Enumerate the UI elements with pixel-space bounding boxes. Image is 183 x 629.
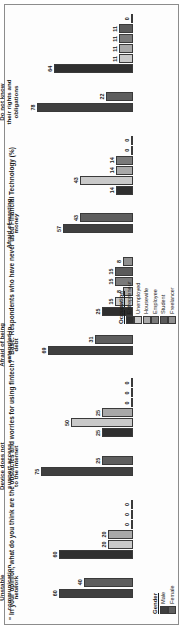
bar-housewife-3[interactable]: 14 (21, 166, 133, 175)
bar-freelancer-0[interactable]: 0 (21, 500, 133, 509)
bar-rect (123, 257, 133, 266)
bar-value-label: 57 (56, 226, 62, 232)
bar-housewife-4[interactable]: 11 (21, 44, 133, 53)
bar-female-2[interactable]: 31 (21, 335, 133, 344)
legend-occupation: Occupation EntrepreneurUnemployedHousewi… (118, 281, 177, 324)
bar-value-label: 50 (64, 420, 70, 426)
bar-unemployed-2[interactable]: 15 (21, 297, 133, 306)
legend-gender-title: Gender (152, 585, 159, 614)
legend-swatch-icon (151, 316, 159, 324)
bar-entrepreneur-2[interactable]: 25 (21, 307, 133, 316)
bar-value-label: 69 (41, 347, 47, 353)
bar-rect (119, 24, 133, 33)
bar-employee-1[interactable]: 0 (21, 398, 133, 407)
bar-value-label: 78 (30, 105, 36, 111)
bar-entrepreneur-3[interactable]: 14 (21, 186, 133, 195)
bar-value-label: 60 (52, 590, 58, 596)
chart-canvas: " In your opinion, what do you think are… (5, 5, 178, 624)
legend-item-label: Employee (152, 289, 159, 314)
bar-female-0[interactable]: 40 (21, 578, 133, 587)
bar-freelancer-2[interactable]: 8 (21, 257, 133, 266)
bar-rect (131, 388, 133, 397)
legend-item-gender-1[interactable]: Female (168, 585, 176, 614)
bar-value-label: 14 (109, 157, 115, 163)
bar-rect (59, 550, 133, 559)
legend-swatch-icon (126, 316, 134, 324)
plot-area: Unstable communication network6040602020… (21, 11, 133, 618)
bar-group-occupation-3: 1443141400 (21, 137, 133, 193)
bar-unemployed-1[interactable]: 50 (21, 418, 133, 427)
legend-item-occupation-4[interactable]: Student (160, 281, 168, 324)
bar-entrepreneur-0[interactable]: 60 (21, 550, 133, 559)
bar-rect (95, 335, 133, 344)
legend-item-gender-0[interactable]: Male (160, 585, 168, 614)
bar-group-occupation-0: 602020000 (21, 501, 133, 557)
legend-occupation-title: Occupation (118, 281, 125, 324)
bar-rect (37, 103, 133, 112)
bar-female-3[interactable]: 43 (21, 213, 133, 222)
bar-rect (131, 398, 133, 407)
legend-occupation-items: EntrepreneurUnemployedHousewifeEmployeeS… (126, 281, 177, 324)
legend-swatch-icon (160, 606, 168, 614)
bar-housewife-2[interactable]: 8 (21, 287, 133, 296)
bar-male-3[interactable]: 57 (21, 224, 133, 233)
category-label: Device does not support access to the in… (0, 441, 19, 492)
bar-rect (119, 34, 133, 43)
bar-female-1[interactable]: 25 (21, 456, 133, 465)
legend-item-occupation-3[interactable]: Employee (151, 281, 159, 324)
bar-value-label: 22 (99, 94, 105, 100)
legend-item-occupation-2[interactable]: Housewife (143, 281, 151, 324)
bar-value-label: 64 (47, 66, 53, 72)
bar-male-1[interactable]: 75 (21, 467, 133, 476)
bar-rect (131, 146, 133, 155)
bar-rect (116, 166, 133, 175)
legend-item-occupation-5[interactable]: Freelancer (168, 281, 176, 324)
legend-item-occupation-1[interactable]: Unemployed (134, 281, 142, 324)
figure-frame: " In your opinion, what do you think are… (4, 4, 179, 625)
bar-student-4[interactable]: 11 (21, 24, 133, 33)
bar-student-3[interactable]: 0 (21, 146, 133, 155)
bar-group-occupation-1: 255025000 (21, 380, 133, 436)
bar-rect (131, 14, 133, 23)
bar-value-label: 20 (101, 531, 107, 537)
bar-rect (108, 530, 133, 539)
bar-student-0[interactable]: 0 (21, 510, 133, 519)
legend-item-occupation-0[interactable]: Entrepreneur (126, 281, 134, 324)
bar-unemployed-0[interactable]: 20 (21, 540, 133, 549)
bar-unemployed-4[interactable]: 11 (21, 54, 133, 63)
bar-value-label: 11 (112, 26, 118, 32)
bar-value-label: 15 (108, 299, 114, 305)
bar-value-label: 25 (95, 309, 101, 315)
bar-employee-0[interactable]: 0 (21, 520, 133, 529)
category-label: Afraid of wasting money (5, 198, 19, 249)
bar-entrepreneur-4[interactable]: 64 (21, 64, 133, 73)
bar-entrepreneur-1[interactable]: 25 (21, 428, 133, 437)
bar-freelancer-4[interactable]: 0 (21, 14, 133, 23)
category-label: Afraid of being entangled in debt (0, 319, 19, 370)
bar-male-0[interactable]: 60 (21, 589, 133, 598)
bar-rect (102, 428, 133, 437)
bar-unemployed-3[interactable]: 43 (21, 176, 133, 185)
rotated-figure-container: " In your opinion, what do you think are… (5, 5, 178, 624)
bar-housewife-0[interactable]: 20 (21, 530, 133, 539)
bar-value-label: 43 (73, 215, 79, 221)
bar-student-1[interactable]: 0 (21, 388, 133, 397)
bar-rect (63, 224, 133, 233)
bar-female-4[interactable]: 22 (21, 92, 133, 101)
bar-freelancer-3[interactable]: 0 (21, 136, 133, 145)
bar-freelancer-1[interactable]: 0 (21, 378, 133, 387)
bar-employee-3[interactable]: 14 (21, 156, 133, 165)
bar-rect (80, 213, 133, 222)
bar-employee-4[interactable]: 11 (21, 34, 133, 43)
legend-item-label: Unemployed (135, 283, 142, 314)
bar-student-2[interactable]: 15 (21, 267, 133, 276)
bar-housewife-1[interactable]: 25 (21, 408, 133, 417)
bar-employee-2[interactable]: 15 (21, 277, 133, 286)
bar-value-label: 0 (124, 17, 130, 20)
bar-male-4[interactable]: 78 (21, 103, 133, 112)
bar-male-2[interactable]: 69 (21, 346, 133, 355)
legend-gender: Gender MaleFemale (152, 585, 177, 614)
bar-rect (108, 540, 133, 549)
bar-rect (48, 346, 133, 355)
bar-value-label: 31 (88, 336, 94, 342)
